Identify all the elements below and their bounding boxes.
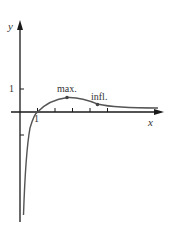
y-axis-label: y: [8, 21, 13, 31]
y-tick-label-1: 1: [9, 84, 14, 94]
function-graph: [0, 0, 170, 226]
inflection-annotation: infl.: [91, 92, 107, 102]
max-annotation: max.: [57, 84, 77, 94]
x-axis-label: x: [148, 117, 153, 127]
x-axis-arrow-icon: [154, 109, 164, 115]
curve-ln-x-over-x: [24, 97, 159, 215]
max-point-marker: [65, 96, 69, 100]
y-axis: [17, 20, 23, 222]
inflection-point-marker: [96, 103, 100, 107]
y-axis-arrow-icon: [17, 20, 23, 30]
x-tick-label-1: 1: [34, 114, 39, 124]
